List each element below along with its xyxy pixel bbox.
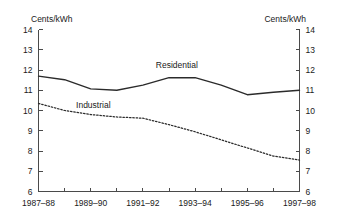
y-tick-label-left: 9 — [28, 126, 33, 136]
y-ticks-left — [39, 30, 43, 192]
x-tick-label: 1993–94 — [179, 198, 212, 208]
y-axis-unit-right: Cents/kWh — [264, 14, 306, 24]
y-tick-label-right: 11 — [306, 85, 315, 95]
chart-container: 67891011121314 67891011121314 1987–88198… — [0, 0, 338, 224]
y-tick-label-left: 11 — [24, 85, 33, 95]
y-tick-label-left: 13 — [23, 45, 33, 55]
y-tick-label-left: 14 — [23, 25, 33, 35]
series-label-residential: Residential — [156, 60, 198, 70]
y-tick-label-right: 12 — [306, 65, 316, 75]
y-tick-label-left: 8 — [28, 146, 33, 156]
x-tick-label: 1987–88 — [22, 198, 55, 208]
y-tick-labels-left: 67891011121314 — [23, 25, 33, 197]
x-tick-label: 1991–92 — [126, 198, 159, 208]
series-label-industrial: Industrial — [76, 100, 111, 110]
x-tick-label: 1989–90 — [74, 198, 107, 208]
series-group — [39, 76, 300, 160]
y-tick-label-left: 7 — [28, 166, 33, 176]
y-tick-label-right: 10 — [306, 106, 316, 116]
axis-frame — [39, 30, 300, 192]
y-tick-label-right: 13 — [306, 45, 316, 55]
x-tick-labels: 1987–881989–901991–921993–941995–961997–… — [22, 198, 316, 208]
line-chart: 67891011121314 67891011121314 1987–88198… — [0, 0, 338, 224]
y-tick-label-right: 6 — [306, 187, 311, 197]
x-tick-label: 1995–96 — [231, 198, 264, 208]
y-ticks-right — [296, 30, 300, 192]
series-annotations: ResidentialIndustrial — [76, 60, 198, 110]
y-tick-label-right: 8 — [306, 146, 311, 156]
y-axis-unit-left: Cents/kWh — [31, 14, 73, 24]
y-tick-label-left: 6 — [28, 187, 33, 197]
y-tick-label-left: 10 — [23, 106, 33, 116]
y-tick-label-left: 12 — [23, 65, 33, 75]
y-tick-label-right: 9 — [306, 126, 311, 136]
x-ticks — [65, 188, 274, 192]
y-tick-labels-right: 67891011121314 — [306, 25, 316, 197]
y-tick-label-right: 14 — [306, 25, 316, 35]
series-line-industrial — [39, 103, 300, 160]
y-tick-label-right: 7 — [306, 166, 311, 176]
x-tick-label: 1997–98 — [283, 198, 316, 208]
series-line-residential — [39, 76, 300, 95]
